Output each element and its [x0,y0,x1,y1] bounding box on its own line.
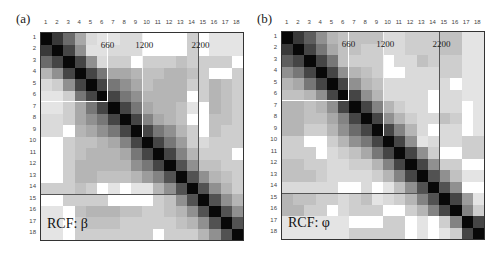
heatmap-cell [405,67,417,79]
heatmap-cell [428,216,440,228]
heatmap-cell [405,216,417,228]
heatmap-cell [372,216,384,228]
heatmap-cell [462,32,474,44]
column-label: 2 [292,19,303,25]
heatmap-cell [394,193,406,205]
heatmap-cell [473,32,485,44]
heatmap-cell [405,228,417,240]
heatmap-cell [473,78,485,90]
heatmap-cell [282,124,294,136]
heatmap-cell [361,101,373,113]
heatmap-cell [450,182,462,194]
heatmap-cell [394,205,406,217]
heatmap-cell [282,182,294,194]
heatmap-cell [450,32,462,44]
heatmap-cell [383,90,395,102]
heatmap-cell [462,147,474,159]
heatmap-cell [439,182,451,194]
heatmap-cell [428,78,440,90]
heatmap-cell [372,90,384,102]
heatmap-cell [349,55,361,67]
heatmap-cell [383,170,395,182]
column-label: 15 [438,19,449,25]
heatmap-cell [439,147,451,159]
heatmap-cell [372,67,384,79]
heatmap-cell [417,32,429,44]
heatmap-cell [405,101,417,113]
heatmap-cell [372,113,384,125]
heatmap-cell [428,101,440,113]
heatmap-cell [462,113,474,125]
heatmap-cell [473,193,485,205]
heatmap-cell [349,216,361,228]
heatmap-cell [361,67,373,79]
heatmap-cell [405,170,417,182]
heatmap-cell [304,136,316,148]
heatmap-cell [462,205,474,217]
heatmap-cell [473,170,485,182]
heatmap-cell [361,55,373,67]
heatmap-cell [282,147,294,159]
heatmap-cell [462,55,474,67]
heatmap-cell [383,55,395,67]
heatmap-cell [383,78,395,90]
heatmap-cell [394,136,406,148]
row-label: 6 [274,90,277,96]
heatmap-cell [473,205,485,217]
heatmap-cell [293,147,305,159]
heatmap-cell [450,78,462,90]
heatmap-cell [417,159,429,171]
heatmap-cell [394,90,406,102]
heatmap-cell [361,78,373,90]
row-label: 5 [274,79,277,85]
heatmap-cell [450,147,462,159]
heatmap-cell [405,147,417,159]
heatmap-cell [338,205,350,217]
heatmap-cell [417,205,429,217]
row-label: 9 [274,125,277,131]
heatmap-cell [428,182,440,194]
heatmap-cell [316,147,328,159]
heatmap-cell [338,147,350,159]
heatmap-cell [439,101,451,113]
heatmap-cell [349,113,361,125]
heatmap-cell [417,101,429,113]
heatmap-cell [338,159,350,171]
heatmap-cell [349,78,361,90]
panel-b: (b) 123456789101112131415161718 12345678… [0,0,502,255]
column-labels-b: 123456789101112131415161718 [281,19,484,27]
row-label: 4 [274,67,277,73]
heatmap-cell [428,228,440,240]
heatmap-cell [462,159,474,171]
heatmap-cell [417,67,429,79]
heatmap-cell [462,90,474,102]
heatmap-cell [417,90,429,102]
heatmap-cell [473,228,485,240]
row-label: 13 [270,171,277,177]
heatmap-cell [338,182,350,194]
row-labels-b: 123456789101112131415161718 [267,31,277,239]
heatmap-cell [473,216,485,228]
heatmap-cell [372,136,384,148]
heatmap-cell [338,170,350,182]
heatmap-cell [428,113,440,125]
heatmap-cell [394,124,406,136]
heatmap-cell [462,216,474,228]
heatmap-cell [349,147,361,159]
panel-label-b: (b) [257,11,272,27]
heatmap-cell [394,67,406,79]
heatmap-cell [439,136,451,148]
column-label: 9 [371,19,382,25]
heatmap-cell [405,124,417,136]
heatmap-cell [462,136,474,148]
heatmap-cell [293,159,305,171]
heatmap-cell [293,113,305,125]
heatmap-cell [361,113,373,125]
heatmap-cell [473,90,485,102]
heatmap-cell [439,113,451,125]
heatmap-cell [361,147,373,159]
heatmap-cell [327,193,339,205]
heatmap-cell [417,55,429,67]
heatmap-cell [405,90,417,102]
heatmap-cell [282,159,294,171]
